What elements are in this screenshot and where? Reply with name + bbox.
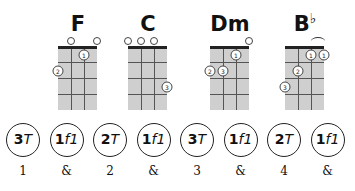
flat-symbol: ♭ bbox=[310, 10, 317, 26]
beat-count: 2 bbox=[93, 164, 127, 178]
barre-arc bbox=[311, 37, 325, 45]
chord-b: B♭1123 bbox=[275, 0, 335, 115]
beat-count: 3 bbox=[180, 164, 214, 178]
open-string-marker bbox=[67, 37, 75, 45]
chord-name: C bbox=[118, 12, 178, 36]
finger-dot: 1 bbox=[79, 50, 90, 61]
pick-circle: 1f1 bbox=[137, 123, 171, 157]
open-string-marker bbox=[93, 37, 101, 45]
chord-name: B♭ bbox=[275, 12, 335, 36]
pick-circle: 2T bbox=[93, 123, 127, 157]
chord-dm: Dm123 bbox=[200, 0, 260, 115]
chord-name: Dm bbox=[200, 12, 260, 36]
finger-dot: 1 bbox=[319, 50, 330, 61]
open-string-marker bbox=[245, 37, 253, 45]
beat-count: 4 bbox=[267, 164, 301, 178]
pick-circle: 1f1 bbox=[224, 123, 258, 157]
beat-count: & bbox=[137, 164, 171, 178]
open-string-marker bbox=[150, 37, 158, 45]
pick-circle: 2T bbox=[267, 123, 301, 157]
pick-circle: 3T bbox=[180, 123, 214, 157]
fretboard-grid bbox=[210, 46, 249, 110]
chord-name: F bbox=[48, 12, 108, 36]
finger-dot: 2 bbox=[293, 66, 304, 77]
fretboard-grid bbox=[58, 46, 97, 110]
beat-count: & bbox=[50, 164, 84, 178]
chord-f: F12 bbox=[48, 0, 108, 115]
finger-dot: 1 bbox=[306, 50, 317, 61]
pick-circle: 1f1 bbox=[50, 123, 84, 157]
open-string-marker bbox=[137, 37, 145, 45]
finger-dot: 2 bbox=[205, 66, 216, 77]
finger-dot: 3 bbox=[162, 82, 173, 93]
beat-count: & bbox=[224, 164, 258, 178]
pick-circle: 1f1 bbox=[311, 123, 345, 157]
finger-dot: 2 bbox=[53, 66, 64, 77]
finger-dot: 3 bbox=[280, 82, 291, 93]
fretboard-grid bbox=[128, 46, 167, 110]
finger-dot: 1 bbox=[231, 50, 242, 61]
open-string-marker bbox=[124, 37, 132, 45]
beat-count: 1 bbox=[6, 164, 40, 178]
finger-dot: 3 bbox=[218, 66, 229, 77]
pick-circle: 3T bbox=[6, 123, 40, 157]
beat-count: & bbox=[311, 164, 345, 178]
chord-c: C3 bbox=[118, 0, 178, 115]
